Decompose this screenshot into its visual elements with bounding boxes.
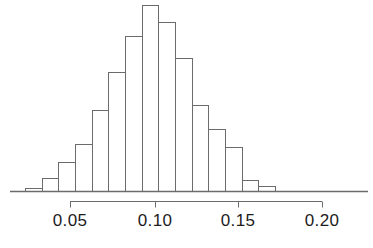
histogram-figure: 0.050.100.150.20 — [0, 0, 373, 248]
x-axis-tick-label: 0.20 — [305, 212, 339, 229]
histogram-bar — [59, 163, 76, 192]
histogram-bar — [143, 6, 159, 192]
x-axis-rule — [70, 202, 323, 208]
histogram-bar — [109, 73, 126, 192]
histogram-bar — [126, 37, 143, 192]
x-axis-tick-label: 0.10 — [138, 212, 172, 229]
histogram-bars — [26, 6, 276, 192]
histogram-bar — [43, 179, 59, 192]
histogram-bar — [226, 148, 243, 192]
x-axis-tick-label: 0.05 — [53, 212, 87, 229]
histogram-bar — [209, 130, 226, 192]
histogram-bar — [243, 181, 259, 192]
histogram-bar — [259, 187, 276, 192]
histogram-bar — [159, 23, 176, 192]
histogram-bar — [176, 59, 193, 192]
histogram-bar — [76, 145, 93, 192]
histogram-bar — [193, 106, 209, 192]
x-axis-tick-label: 0.15 — [221, 212, 255, 229]
histogram-bar — [93, 111, 109, 192]
